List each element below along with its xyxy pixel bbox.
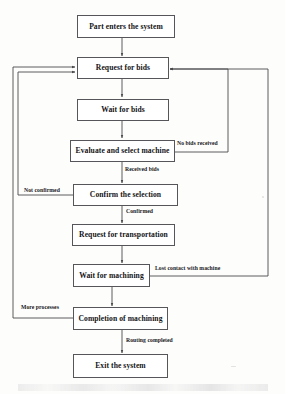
node-request-for-transportation[interactable]: Request for transportation (72, 224, 175, 246)
edge-label-no-bids-received: No bids received (177, 140, 218, 146)
node-wait-for-bids[interactable]: Wait for bids (77, 99, 169, 121)
node-confirm-the-selection[interactable]: Confirm the selection (73, 184, 178, 206)
node-part-enters-the-system[interactable]: Part enters the system (77, 15, 175, 38)
page-caption-smudge (18, 384, 268, 391)
edge-label-received-bids: Received bids (125, 166, 159, 172)
edge-label-lost-contact-with-machine: Lost contact with machine (155, 265, 220, 271)
node-completion-of-machining[interactable]: Completion of machining (73, 307, 168, 330)
node-evaluate-and-select-machine[interactable]: Evaluate and select machine (70, 140, 175, 162)
edge-label-not-confirmed: Not confirmed (24, 187, 60, 193)
node-exit-the-system[interactable]: Exit the system (73, 354, 168, 378)
node-wait-for-machining[interactable]: Wait for machining (73, 264, 150, 287)
edge-label-confirmed: Confirmed (126, 208, 153, 214)
edge-label-more-processes: More processes (21, 304, 59, 310)
edge-label-routing-completed: Routing completed (126, 337, 173, 343)
scan-speck (262, 196, 264, 198)
flowchart-canvas: Part enters the system Request for bids … (0, 0, 285, 394)
edge-not-confirmed-loop (18, 72, 75, 195)
node-request-for-bids[interactable]: Request for bids (77, 57, 169, 79)
